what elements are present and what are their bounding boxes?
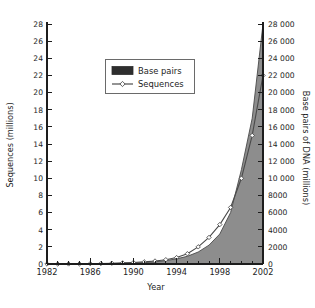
y2-axis-tick-label: 26 000 — [268, 37, 295, 46]
y-axis-tick-label: 16 — [33, 123, 43, 132]
y2-axis-tick-label: 28 000 — [268, 20, 295, 29]
y-axis-tick-label: 24 — [33, 54, 43, 63]
legend-label-sequences: Sequences — [138, 79, 184, 89]
y2-axis-tick-label: 4000 — [268, 226, 287, 235]
y-axis-tick-label: 22 — [33, 71, 43, 80]
y2-axis-tick-label: 20 000 — [268, 88, 295, 97]
y2-axis-tick-label: 24 000 — [268, 54, 295, 63]
legend-label-base-pairs: Base pairs — [138, 66, 182, 76]
y2-axis-tick-label: 2000 — [268, 243, 287, 252]
x-axis-tick-label: 1982 — [37, 267, 58, 277]
x-axis-tick-label: 1990 — [123, 267, 144, 277]
y-axis-tick-label: 10 — [33, 174, 43, 183]
y-axis-tick-label: 6 — [38, 208, 43, 217]
y-axis-title: Sequences (millions) — [5, 102, 15, 187]
y-axis-tick-label: 4 — [38, 226, 43, 235]
y-axis-tick-label: 8 — [38, 191, 43, 200]
chart-svg: 0246810121416182022242628020004000600080… — [0, 0, 315, 308]
y2-axis-tick-label: 18 000 — [268, 106, 295, 115]
y-axis-tick-label: 12 — [33, 157, 43, 166]
y2-axis-tick-label: 12 000 — [268, 157, 295, 166]
y-axis-tick-label: 18 — [33, 106, 43, 115]
x-axis-tick-label: 1998 — [209, 267, 230, 277]
y-axis-tick-label: 14 — [33, 140, 43, 149]
chart-legend: Base pairsSequences — [105, 59, 194, 93]
y-axis-tick-label: 2 — [38, 243, 43, 252]
y2-axis-tick-label: 14 000 — [268, 140, 295, 149]
y-axis-tick-label: 28 — [33, 20, 43, 29]
y2-axis-tick-label: 6000 — [268, 208, 287, 217]
legend-swatch-base-pairs — [112, 67, 133, 75]
y2-axis-tick-label: 10 000 — [268, 174, 295, 183]
x-axis-tick-label: 1994 — [166, 267, 187, 277]
y2-axis-tick-label: 16 000 — [268, 123, 295, 132]
chart-figure: 0246810121416182022242628020004000600080… — [0, 0, 315, 308]
x-axis-tick-label: 2002 — [253, 267, 274, 277]
y-axis-tick-label: 20 — [33, 88, 43, 97]
x-axis-title: Year — [146, 282, 165, 292]
y2-axis-title: Base pairs of DNA (millions) — [301, 91, 311, 205]
x-axis-tick-label: 1986 — [80, 267, 101, 277]
y2-axis-tick-label: 22 000 — [268, 71, 295, 80]
y2-axis-tick-label: 8000 — [268, 191, 287, 200]
y-axis-tick-label: 26 — [33, 37, 43, 46]
